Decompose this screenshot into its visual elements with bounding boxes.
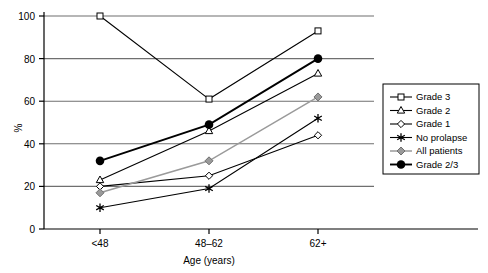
y-tick-label-0: 0 (29, 224, 35, 235)
y-tick-label-80: 80 (24, 54, 36, 65)
legend-label: All patients (416, 145, 463, 156)
data-point (96, 157, 105, 166)
legend-item-grade-2-3[interactable]: Grade 2/3 (390, 159, 458, 170)
legend-marker (397, 160, 406, 169)
data-point (206, 96, 212, 102)
x-axis-label: Age (years) (183, 255, 235, 266)
y-tick-label-60: 60 (24, 96, 36, 107)
legend-marker (398, 94, 404, 100)
legend-item-no-prolapse[interactable]: No prolapse (390, 132, 467, 143)
legend-label: Grade 2/3 (416, 159, 458, 170)
x-tick-label-2: 62+ (310, 238, 327, 249)
x-tick-label-0: <48 (92, 238, 109, 249)
chart-container: 100 80 60 40 20 0 % <48 48–62 62+ Age (y… (0, 0, 488, 273)
legend: Grade 3Grade 2Grade 1No prolapseAll pati… (383, 84, 479, 174)
line-chart: 100 80 60 40 20 0 % <48 48–62 62+ Age (y… (0, 0, 488, 273)
y-axis-label: % (13, 123, 24, 132)
data-point (205, 120, 214, 129)
data-point (314, 54, 323, 63)
data-point (315, 28, 321, 34)
x-tick-label-1: 48–62 (195, 238, 223, 249)
y-tick-label-20: 20 (24, 181, 36, 192)
legend-label: Grade 1 (416, 118, 450, 129)
data-point (97, 13, 103, 19)
legend-item-all-patients[interactable]: All patients (390, 145, 463, 156)
legend-label: No prolapse (416, 132, 467, 143)
y-tick-label-100: 100 (18, 11, 35, 22)
legend-label: Grade 2 (416, 105, 450, 116)
legend-label: Grade 3 (416, 91, 450, 102)
y-tick-label-40: 40 (24, 139, 36, 150)
